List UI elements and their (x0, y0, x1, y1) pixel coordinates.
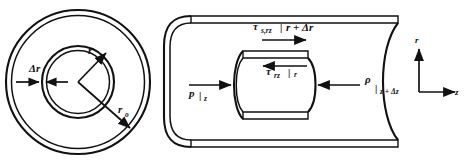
figure-svg: Δr r r o (0, 0, 464, 165)
axis-z-label: z (454, 87, 459, 97)
pressure-right-bar: | (375, 82, 377, 94)
axis-r-label: r (415, 35, 419, 45)
radius-r-label: r (88, 44, 93, 56)
shear-stress-inner-label: τ rz | r (266, 65, 297, 80)
shear-stress-top-subscript: s,rz (260, 26, 272, 35)
pressure-right-evaluated-at: z + Δz (379, 87, 399, 96)
pressure-left-evaluated-at: z (203, 94, 207, 103)
radius-ro-label: r (118, 103, 123, 115)
shear-stress-inner-bar: | (288, 66, 290, 78)
shell-right-face (308, 58, 316, 112)
pressure-left-bar: | (199, 89, 201, 101)
pipe-cutaway-diagram: τ s,rz | r + Δr τ rz | r p | z ρ | (164, 16, 459, 147)
radius-r-arrow (78, 53, 106, 82)
delta-r-label: Δr (28, 62, 41, 74)
pressure-right-symbol: ρ (364, 73, 371, 85)
pipe-bottom-wall-band (191, 140, 398, 147)
radius-ro-subscript: o (125, 110, 129, 119)
shell-top-band (243, 51, 308, 58)
pressure-left-label: p | z (188, 87, 207, 103)
pressure-left-symbol: p (188, 87, 195, 99)
cross-section-diagram: Δr r r o (6, 10, 150, 154)
pipe-left-end-outer-curve (164, 16, 191, 147)
shear-stress-inner-subscript: rz (274, 71, 280, 80)
shear-stress-top-bar: | (280, 21, 282, 33)
shell-left-face-outer (234, 51, 243, 119)
shell-left-face-inner (236, 58, 243, 112)
shear-stress-top-evaluated-at: r + Δr (286, 21, 314, 33)
shear-stress-inner-evaluated-at: r (294, 70, 297, 79)
shell-bottom-band (243, 112, 308, 119)
coordinate-axes: r z (415, 35, 459, 97)
pipe-right-end-cut-curve (383, 23, 398, 140)
pipe-left-end-inner-curve (170, 23, 191, 140)
figure-container: Δr r r o (0, 0, 464, 165)
pressure-right-label: ρ | z + Δz (364, 73, 399, 96)
